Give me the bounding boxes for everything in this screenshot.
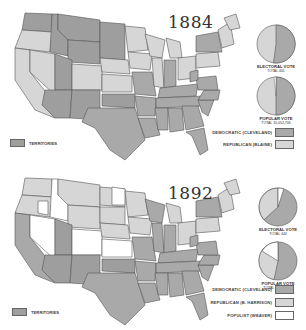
state-new-york <box>196 32 222 52</box>
state-illinois <box>152 58 164 88</box>
map-panel-1884: 1884 ELECTORAL VOTE TOTAL 401 POPULAR VO… <box>0 0 306 165</box>
popular-vote-pie <box>258 241 298 281</box>
state-washington-territory <box>22 13 52 32</box>
year-title: 1884 <box>168 12 213 32</box>
electoral-vote-pie <box>258 187 298 227</box>
popular-vote-pie <box>256 76 296 116</box>
state-missouri <box>132 237 156 261</box>
state-georgia <box>182 106 204 130</box>
state-north-carolina <box>198 90 220 100</box>
state-nebraska <box>100 223 130 239</box>
map-panel-1892: 1892 ELECTORAL VOTE TOTAL 444 POPULAR VO… <box>0 165 306 330</box>
state-florida <box>186 293 208 320</box>
state-wyoming-territory <box>68 40 100 64</box>
state-minnesota <box>125 26 148 52</box>
legend-swatch-populist <box>275 311 294 320</box>
state-oklahoma-indian-territory <box>102 259 135 273</box>
state-texas <box>82 273 145 325</box>
legend-populist: POPULIST (WEAVER) <box>227 311 294 320</box>
state-nebraska <box>100 58 130 74</box>
state-indiana <box>164 60 176 88</box>
state-north-carolina <box>198 255 220 265</box>
electoral-vote-caption: ELECTORAL VOTE TOTAL 401 <box>251 65 301 73</box>
state-west-virginia <box>190 70 198 82</box>
state-illinois <box>152 223 164 253</box>
legend-swatch-democratic <box>275 285 294 294</box>
popular-vote-caption: POPULAR VOTE TOTAL 10,052,706 <box>251 117 301 125</box>
state-iowa <box>128 52 152 70</box>
legend-swatch-territories <box>10 139 25 147</box>
state-virginia <box>196 241 218 255</box>
state-alabama <box>168 108 184 132</box>
state-arkansas <box>135 261 156 281</box>
state-wyoming <box>68 205 100 229</box>
electoral-vote-pie <box>256 24 296 64</box>
state-texas <box>82 108 145 160</box>
state-missouri <box>132 72 156 96</box>
state-south-dakota <box>100 207 125 225</box>
legend-swatch-republican <box>275 298 294 307</box>
state-michigan <box>166 38 182 58</box>
state-florida <box>186 128 208 155</box>
state-pennsylvania <box>196 217 220 233</box>
state-kansas <box>102 239 132 257</box>
legend-territories: TERRITORIES <box>12 308 59 316</box>
state-virginia <box>196 76 218 90</box>
state-alabama <box>168 273 184 297</box>
state-colorado <box>72 229 102 255</box>
state-oregon-populist-elector <box>38 201 48 215</box>
state-colorado <box>72 64 102 90</box>
state-kansas <box>102 74 132 92</box>
state-minnesota <box>125 191 148 217</box>
state-utah-territory <box>55 54 72 90</box>
legend-swatch-republican <box>275 140 294 149</box>
state-west-virginia <box>190 235 198 247</box>
state-pennsylvania <box>196 52 220 68</box>
state-north-dakota-populist <box>112 187 125 205</box>
state-arkansas <box>135 96 156 116</box>
year-title: 1892 <box>168 183 213 203</box>
state-georgia <box>182 271 204 295</box>
legend-swatch-democratic <box>275 128 294 137</box>
state-dakota-territory <box>100 22 125 60</box>
legend-republican: REPUBLICAN (BLAINE) <box>223 140 294 149</box>
legend-democratic: DEMOCRATIC (CLEVELAND) <box>212 128 294 137</box>
legend-republican: REPUBLICAN (B. HARRISON) <box>211 298 295 307</box>
legend-territories: TERRITORIES <box>10 139 57 147</box>
state-washington <box>22 178 52 197</box>
legend-swatch-territories <box>12 308 27 316</box>
electoral-vote-caption: ELECTORAL VOTE TOTAL 444 <box>253 228 303 236</box>
state-indian-territory <box>102 94 135 108</box>
state-iowa <box>128 217 152 235</box>
state-michigan <box>166 203 182 223</box>
legend-democratic: DEMOCRATIC (CLEVELAND) <box>212 285 294 294</box>
state-indiana <box>164 225 176 253</box>
state-utah-territory <box>55 219 72 255</box>
